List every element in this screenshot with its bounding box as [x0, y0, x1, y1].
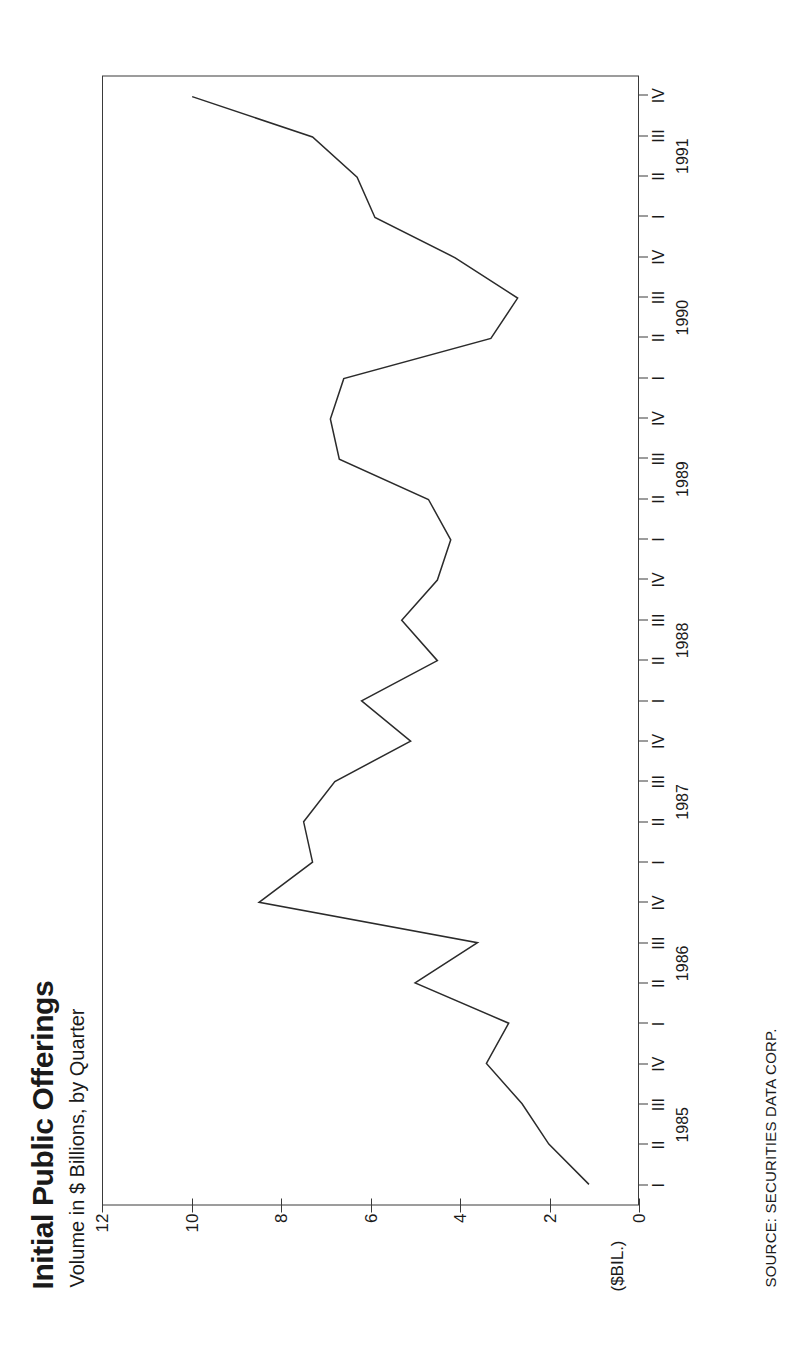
- x-axis-quarter-label: IV: [651, 1047, 667, 1081]
- x-axis-quarter-label: III: [651, 764, 667, 798]
- x-axis-tick: [639, 256, 648, 257]
- y-axis-tick: [102, 1198, 103, 1212]
- x-axis-tick: [639, 417, 648, 418]
- x-axis-quarter-label: II: [651, 482, 667, 516]
- ipo-volume-line: [192, 96, 589, 1184]
- x-axis-quarter-label: III: [651, 280, 667, 314]
- x-axis-quarter-label: I: [651, 1168, 667, 1202]
- x-axis-tick: [639, 94, 648, 95]
- x-axis-tick: [639, 377, 648, 378]
- x-axis-year-label: 1990: [675, 287, 691, 347]
- x-axis-tick: [639, 821, 648, 822]
- x-axis-tick: [639, 175, 648, 176]
- y-axis-unit-label: ($BIL.): [608, 1240, 628, 1291]
- x-axis-tick: [639, 659, 648, 660]
- chart-title: Initial Public Offerings: [26, 980, 60, 1289]
- x-axis-tick: [639, 982, 648, 983]
- x-axis-quarter-label: I: [651, 684, 667, 718]
- x-axis-tick: [639, 578, 648, 579]
- x-axis-quarter-label: II: [651, 643, 667, 677]
- x-axis-tick: [639, 861, 648, 862]
- y-axis-label: 10: [184, 1213, 201, 1247]
- x-axis-tick: [639, 336, 648, 337]
- x-axis-quarter-label: III: [651, 119, 667, 153]
- x-axis-tick: [639, 538, 648, 539]
- chart-source-note: SOURCE: SECURITIES DATA CORP.: [762, 1028, 779, 1287]
- chart-stage: Initial Public Offerings Volume in $ Bil…: [0, 0, 808, 1351]
- x-axis-tick: [639, 1103, 648, 1104]
- x-axis-tick: [639, 700, 648, 701]
- x-axis: IIIIIIIVIIIIIIIVIIIIIIIVIIIIIIIVIIIIIIIV…: [639, 75, 709, 1205]
- x-axis-quarter-label: I: [651, 199, 667, 233]
- x-axis-quarter-label: III: [651, 441, 667, 475]
- x-axis-tick: [639, 942, 648, 943]
- x-axis-quarter-label: I: [651, 845, 667, 879]
- y-axis-tick: [460, 1198, 461, 1212]
- x-axis-year-label: 1985: [675, 1094, 691, 1154]
- x-axis-quarter-label: II: [651, 159, 667, 193]
- x-axis-year-label: 1989: [675, 449, 691, 509]
- x-axis-tick: [639, 296, 648, 297]
- x-axis-tick: [639, 498, 648, 499]
- x-axis-quarter-label: IV: [651, 240, 667, 274]
- x-axis-tick: [639, 1063, 648, 1064]
- line-chart-svg: [103, 76, 638, 1204]
- x-axis-quarter-label: II: [651, 966, 667, 1000]
- x-axis-quarter-label: II: [651, 805, 667, 839]
- x-axis-year-label: 1987: [675, 771, 691, 831]
- y-axis-label: 2: [542, 1213, 559, 1247]
- x-axis-year-label: 1986: [675, 933, 691, 993]
- y-axis-label: 6: [363, 1213, 380, 1247]
- x-axis-quarter-label: IV: [651, 885, 667, 919]
- x-axis-tick: [639, 1143, 648, 1144]
- y-axis-tick: [192, 1198, 193, 1212]
- y-axis-tick: [371, 1198, 372, 1212]
- x-axis-tick: [639, 215, 648, 216]
- x-axis-quarter-label: II: [651, 1127, 667, 1161]
- y-axis-label: 12: [94, 1213, 111, 1247]
- x-axis-quarter-label: I: [651, 522, 667, 556]
- x-axis-tick: [639, 457, 648, 458]
- x-axis-quarter-label: I: [651, 1006, 667, 1040]
- x-axis-quarter-label: III: [651, 1087, 667, 1121]
- chart-subtitle: Volume in $ Billions, by Quarter: [66, 1008, 89, 1287]
- x-axis-year-label: 1991: [675, 126, 691, 186]
- x-axis-quarter-label: IV: [651, 562, 667, 596]
- x-axis-quarter-label: IV: [651, 78, 667, 112]
- y-axis-label: 0: [631, 1213, 648, 1247]
- y-axis-label: 4: [452, 1213, 469, 1247]
- plot-area: [102, 75, 639, 1205]
- x-axis-quarter-label: III: [651, 926, 667, 960]
- y-axis-tick: [550, 1198, 551, 1212]
- x-axis-tick: [639, 901, 648, 902]
- x-axis-tick: [639, 619, 648, 620]
- x-axis-tick: [639, 740, 648, 741]
- x-axis-tick: [639, 135, 648, 136]
- x-axis-year-label: 1988: [675, 610, 691, 670]
- y-axis-tick: [281, 1198, 282, 1212]
- x-axis-quarter-label: III: [651, 603, 667, 637]
- x-axis-tick: [639, 1022, 648, 1023]
- y-axis-label: 8: [273, 1213, 290, 1247]
- x-axis-quarter-label: IV: [651, 401, 667, 435]
- x-axis-tick: [639, 1184, 648, 1185]
- x-axis-quarter-label: I: [651, 361, 667, 395]
- x-axis-quarter-label: IV: [651, 724, 667, 758]
- x-axis-quarter-label: II: [651, 320, 667, 354]
- x-axis-tick: [639, 780, 648, 781]
